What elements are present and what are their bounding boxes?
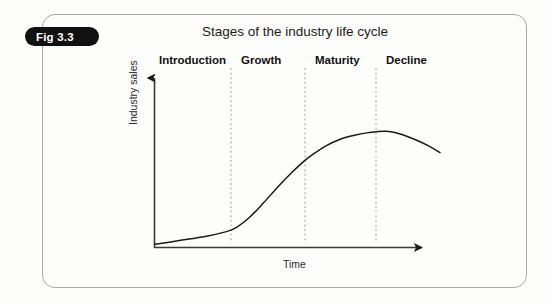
x-axis-label: Time (283, 258, 306, 270)
industry-sales-curve (155, 131, 440, 244)
y-axis-label: Industry sales (127, 35, 139, 125)
chart-plot-area (0, 0, 553, 303)
figure-container: Fig 3.3 Stages of the industry life cycl… (0, 0, 553, 303)
